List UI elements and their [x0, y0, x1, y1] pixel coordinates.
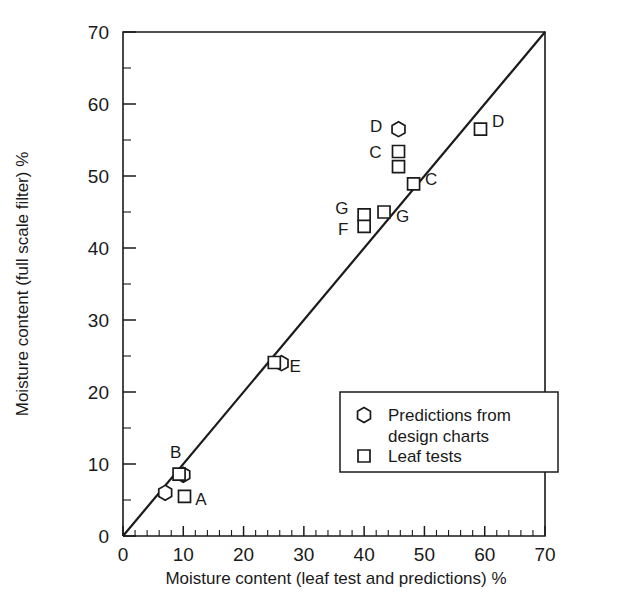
x-tick-label: 10 — [173, 544, 194, 565]
point-label: G — [396, 207, 409, 226]
scatter-chart-figure: 010203040506070 010203040506070 ABCCDDEF… — [0, 0, 624, 608]
data-point-square — [173, 468, 185, 480]
chart-canvas: 010203040506070 010203040506070 ABCCDDEF… — [0, 0, 624, 608]
point-label: C — [369, 143, 381, 162]
x-tick-label: 0 — [118, 544, 129, 565]
data-point-square — [393, 146, 405, 158]
y-axis-title: Moisture content (full scale filter) % — [13, 152, 32, 417]
point-label: B — [170, 443, 181, 462]
point-label: D — [370, 117, 382, 136]
y-tick-label: 70 — [88, 22, 109, 43]
legend-marker-square — [358, 450, 370, 462]
data-point-square — [393, 161, 405, 173]
y-tick-label: 20 — [88, 382, 109, 403]
legend-label-predictions: Predictions from — [388, 406, 511, 425]
chart-background — [0, 0, 624, 608]
y-tick-label: 60 — [88, 94, 109, 115]
point-label: A — [195, 490, 207, 509]
point-label: C — [425, 170, 437, 189]
data-point-hexagon — [392, 122, 405, 137]
point-label: G — [335, 199, 348, 218]
point-label: F — [338, 220, 348, 239]
x-tick-label: 30 — [293, 544, 314, 565]
data-point-square — [378, 206, 390, 218]
legend-label-leaf-tests: Leaf tests — [388, 447, 462, 466]
data-point-square — [178, 490, 190, 502]
x-tick-label: 50 — [414, 544, 435, 565]
x-tick-label: 20 — [233, 544, 254, 565]
point-label: D — [492, 112, 504, 131]
data-point-square — [268, 356, 280, 368]
legend-marker-hexagon — [358, 408, 371, 423]
point-label: E — [289, 357, 300, 376]
data-point-hexagon — [159, 485, 172, 500]
data-point-square — [358, 220, 370, 232]
x-tick-label: 40 — [354, 544, 375, 565]
chart-legend: Predictions fromdesign chartsLeaf tests — [340, 392, 558, 472]
y-tick-label: 10 — [88, 454, 109, 475]
legend-label-predictions-line2: design charts — [388, 427, 489, 446]
x-tick-label: 60 — [474, 544, 495, 565]
y-tick-label: 40 — [88, 238, 109, 259]
x-tick-label: 70 — [534, 544, 555, 565]
y-tick-label: 50 — [88, 166, 109, 187]
y-tick-label: 30 — [88, 310, 109, 331]
x-axis-title: Moisture content (leaf test and predicti… — [165, 569, 506, 588]
data-point-square — [358, 209, 370, 221]
data-point-square — [408, 178, 420, 190]
y-tick-label: 0 — [98, 526, 109, 547]
data-point-square — [474, 123, 486, 135]
